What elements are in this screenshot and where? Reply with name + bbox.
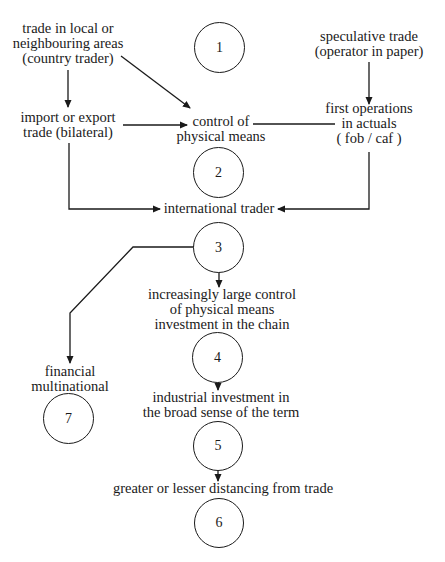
stage-2-label: 2: [215, 165, 222, 181]
connector-layer: [0, 0, 445, 562]
node-local-trade: trade in local or neighbouring areas (co…: [13, 21, 124, 66]
node-speculative-trade: speculative trade (operator in paper): [315, 29, 424, 59]
node-distancing: greater or lesser distancing from trade: [113, 481, 333, 496]
stage-1-label: 1: [216, 40, 223, 56]
stage-1-circle: 1: [194, 22, 245, 73]
node-import-export: import or export trade (bilateral): [20, 110, 115, 140]
node-financial-multinational: financial multinational: [31, 364, 108, 394]
node-control-physical: control of physical means: [177, 114, 266, 144]
stage-7-label: 7: [65, 411, 72, 427]
node-international-trader: international trader: [164, 201, 275, 216]
stage-6-label: 6: [216, 515, 223, 531]
node-first-operations: first operations in actuals ( fob / caf …: [325, 101, 412, 146]
stage-6-circle: 6: [194, 498, 244, 548]
stage-4-circle: 4: [192, 332, 243, 383]
stage-5-circle: 5: [193, 421, 243, 471]
node-increasing-control: increasingly large control of physical m…: [148, 287, 296, 332]
stage-5-label: 5: [215, 438, 222, 454]
edge-import-to-intl: [69, 143, 160, 209]
stage-2-circle: 2: [193, 147, 244, 198]
stage-7-circle: 7: [43, 393, 94, 444]
stage-3-label: 3: [215, 240, 222, 256]
edge-first-ops-to-intl: [278, 152, 369, 209]
edge-local-to-control: [121, 56, 190, 108]
stage-3-circle: 3: [193, 222, 244, 273]
node-industrial-investment: industrial investment in the broad sense…: [143, 390, 300, 420]
stage-4-label: 4: [214, 350, 221, 366]
